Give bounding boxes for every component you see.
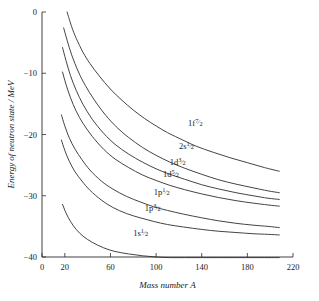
curve-label-1d3-2: 1d3⁄2 <box>170 156 186 167</box>
neutron-energy-level-chart: 02060100140180220 0−10−20−30−40 1f7⁄22s1… <box>0 0 319 301</box>
curves-group <box>61 12 279 258</box>
curve-labels-group: 1f7⁄22s1⁄21d3⁄21d5⁄21p1⁄21p3⁄21s1⁄2 <box>133 117 202 238</box>
y-tick-labels: 0−10−20−30−40 <box>24 7 37 262</box>
energy-curve-1f7-2 <box>67 12 279 171</box>
y-tick-label: −20 <box>24 130 37 140</box>
x-tick-label: 0 <box>40 262 44 272</box>
curve-label-1s1-2: 1s1⁄2 <box>133 227 148 238</box>
x-tick-label: 60 <box>106 262 115 272</box>
curve-label-2s1-2: 2s1⁄2 <box>179 140 194 151</box>
curve-label-1p3-2: 1p3⁄2 <box>145 202 161 213</box>
y-tick-label: −40 <box>24 252 37 262</box>
curve-label-1f7-2: 1f7⁄2 <box>188 117 203 128</box>
x-axis-title: Mass number A <box>138 280 196 290</box>
x-tick-label: 180 <box>241 262 254 272</box>
curve-label-1d5-2: 1d5⁄2 <box>163 168 179 179</box>
y-tick-label: 0 <box>33 7 37 17</box>
y-axis-title: Energy of neutron state / MeV <box>6 79 16 190</box>
axes-group <box>42 12 293 257</box>
y-tick-label: −30 <box>24 191 37 201</box>
x-tick-label: 20 <box>61 262 70 272</box>
x-tick-label: 220 <box>287 262 300 272</box>
y-tick-label: −10 <box>24 68 37 78</box>
x-tick-label: 140 <box>195 262 208 272</box>
x-tick-labels: 02060100140180220 <box>40 262 300 272</box>
chart-canvas: 02060100140180220 0−10−20−30−40 1f7⁄22s1… <box>0 0 319 301</box>
energy-curve-1s1-2 <box>63 204 280 257</box>
tick-marks-group <box>42 12 293 257</box>
x-tick-label: 100 <box>150 262 163 272</box>
energy-curve-1p3-2 <box>61 140 279 235</box>
curve-label-1p1-2: 1p1⁄2 <box>154 186 170 197</box>
